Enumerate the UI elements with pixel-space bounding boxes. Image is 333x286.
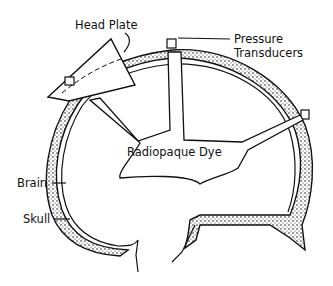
head-plate: [48, 39, 135, 101]
label-brain: Brain: [17, 177, 47, 190]
label-head-plate: Head Plate: [75, 19, 138, 32]
label-pressure-line1: Pressure: [234, 33, 283, 46]
label-pressure-line2: Transducers: [234, 47, 303, 60]
label-radiopaque-dye: Radiopaque Dye: [127, 146, 222, 159]
label-skull: Skull: [23, 213, 50, 226]
transducer-top: [167, 39, 176, 48]
